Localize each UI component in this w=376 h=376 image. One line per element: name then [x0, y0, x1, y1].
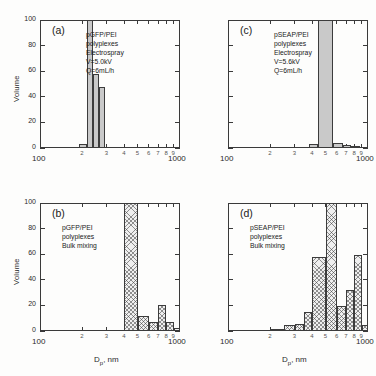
bar-d-8 [354, 255, 361, 331]
panel-tag-b: (b) [52, 207, 65, 219]
bar-d-7 [346, 290, 354, 331]
annotation-line: pSEAP/PEI [274, 30, 312, 39]
annotation-line: polyplexes [86, 39, 124, 48]
annotation-line: Electrospray [86, 48, 124, 57]
annotation-line: Bulk mixing [62, 241, 97, 250]
xtick-label-a-300: 3 [105, 150, 108, 156]
xaxis-start-label-c: 100 [220, 154, 233, 163]
ytick-label-a-100: 100 [14, 15, 36, 22]
xtick-label-a-700: 7 [156, 150, 159, 156]
xtick-label-d-500: 5 [324, 333, 327, 339]
xtick-label-b-400: 4 [122, 333, 125, 339]
annotation-line: V=5.6kV [274, 57, 312, 66]
ytick-label-b-0: 0 [14, 326, 36, 333]
ytick-label-a-60: 60 [14, 66, 36, 73]
xtick-label-c-700: 7 [344, 150, 347, 156]
annotation-line: Electrospray [274, 48, 312, 57]
bars-d [228, 203, 368, 331]
xtick-label-b-300: 3 [105, 333, 108, 339]
xtick-label-b-600: 6 [147, 333, 150, 339]
xaxis-title-d: Dp, nm [282, 355, 307, 366]
xtick-label-b-500: 5 [136, 333, 139, 339]
ytick-label-a-0: 0 [14, 143, 36, 150]
xtick-label-a-500: 5 [136, 150, 139, 156]
xaxis-start-label-b: 100 [32, 337, 45, 346]
bar-c-1 [318, 20, 333, 148]
bar-c-3 [343, 145, 352, 148]
panel-annotation-b: pGFP/PEIpolyplexesBulk mixing [62, 223, 97, 250]
xtick-label-d-400: 4 [310, 333, 313, 339]
bar-b-3 [158, 305, 166, 331]
panel-annotation-c: pSEAP/PEIpolyplexesElectrosprayV=5.6kVQ=… [274, 30, 312, 75]
annotation-line: Q=6mL/h [274, 66, 312, 75]
xtick-label-d-600: 6 [335, 333, 338, 339]
xtick-label-c-300: 3 [293, 150, 296, 156]
annotation-line: pSEAP/PEI [250, 223, 285, 232]
figure-root: 020406080100234567891001000(a)pGFP/PEIpo… [0, 0, 376, 376]
panel-annotation-a: pGFP/PEIpolyplexesElectrosprayV=5.0kVQ=6… [86, 30, 124, 75]
xaxis-end-label-d: 1000 [356, 337, 374, 346]
xtick-label-b-700: 7 [156, 333, 159, 339]
xaxis-end-label-a: 1000 [168, 154, 186, 163]
bar-b-2 [149, 322, 158, 331]
panel-tag-d: (d) [240, 207, 253, 219]
bar-a-3 [99, 87, 104, 148]
ytick-label-b-20: 20 [14, 300, 36, 307]
xaxis-end-label-c: 1000 [356, 154, 374, 163]
bar-d-6 [337, 306, 346, 331]
xtick-label-c-600: 6 [335, 150, 338, 156]
xtick-label-a-600: 6 [147, 150, 150, 156]
bar-a-0 [79, 144, 87, 148]
bar-d-3 [304, 312, 312, 331]
ytick-label-b-60: 60 [14, 249, 36, 256]
xaxis-end-label-b: 1000 [168, 337, 186, 346]
xtick-label-d-200: 2 [268, 333, 271, 339]
annotation-line: Q=6mL/h [86, 66, 124, 75]
annotation-line: V=5.0kV [86, 57, 124, 66]
bar-d-2 [295, 324, 304, 331]
bar-d-0 [270, 329, 284, 331]
yaxis-title-a: Volume [12, 75, 21, 102]
yaxis-title-b: Volume [12, 258, 21, 285]
xaxis-start-label-a: 100 [32, 154, 45, 163]
bar-d-1 [284, 325, 295, 331]
bar-d-9 [362, 325, 368, 331]
bar-b-1 [138, 316, 149, 331]
bar-d-5 [326, 203, 337, 331]
bar-c-0 [309, 144, 318, 148]
xtick-label-a-400: 4 [122, 150, 125, 156]
bar-b-4 [166, 322, 173, 331]
xtick-label-d-300: 3 [293, 333, 296, 339]
panel-tag-a: (a) [52, 24, 65, 36]
xtick-label-b-200: 2 [80, 333, 83, 339]
xtick-label-a-200: 2 [80, 150, 83, 156]
panel-annotation-d: pSEAP/PEIpolyplexesBulk mixing [250, 223, 285, 250]
xtick-label-c-200: 2 [268, 150, 271, 156]
xtick-label-d-700: 7 [344, 333, 347, 339]
bar-d-4 [312, 257, 326, 331]
ytick-label-b-100: 100 [14, 198, 36, 205]
annotation-line: polyplexes [250, 232, 285, 241]
bar-c-2 [333, 143, 343, 148]
bar-b-5 [174, 328, 180, 331]
annotation-line: Bulk mixing [250, 241, 285, 250]
annotation-line: pGFP/PEI [86, 30, 124, 39]
bar-b-0 [124, 203, 138, 331]
ytick-label-a-20: 20 [14, 117, 36, 124]
annotation-line: polyplexes [274, 39, 312, 48]
xtick-label-c-500: 5 [324, 150, 327, 156]
bars-b [40, 203, 180, 331]
annotation-line: pGFP/PEI [62, 223, 97, 232]
xaxis-start-label-d: 100 [220, 337, 233, 346]
bar-c-4 [351, 146, 360, 148]
ytick-label-b-80: 80 [14, 224, 36, 231]
xaxis-title-b: Dp, nm [94, 355, 119, 366]
panel-tag-c: (c) [240, 24, 252, 36]
ytick-label-a-80: 80 [14, 41, 36, 48]
annotation-line: polyplexes [62, 232, 97, 241]
xtick-label-c-400: 4 [310, 150, 313, 156]
